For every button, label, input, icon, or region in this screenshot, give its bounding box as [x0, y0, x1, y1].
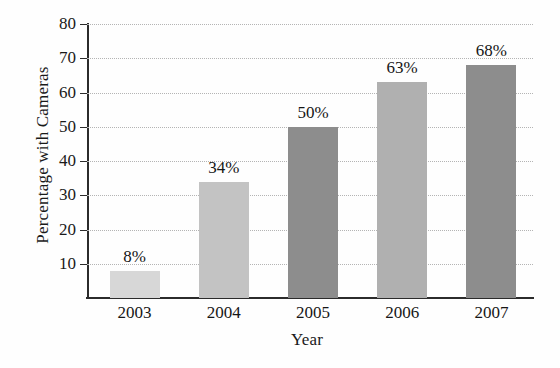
y-axis-tick-label: 80 [59, 14, 76, 34]
y-axis-tick-mark [80, 93, 87, 94]
y-axis-tick-label: 20 [59, 219, 76, 239]
y-axis-tick-label: 50 [59, 116, 76, 136]
y-axis-tick-label: 60 [59, 82, 76, 102]
bar-value-label: 63% [387, 58, 418, 78]
y-axis-tick-mark [80, 161, 87, 162]
gridline [87, 24, 533, 25]
y-axis-tick-mark [80, 195, 87, 196]
bar-2007: 68% [466, 65, 516, 298]
x-axis-tick-label-2005: 2005 [296, 303, 330, 323]
y-axis-tick-mark [80, 264, 87, 265]
bar-2005: 50% [288, 127, 338, 298]
y-axis-tick-label: 10 [59, 253, 76, 273]
y-axis-tick-label: 40 [59, 151, 76, 171]
x-axis-title: Year [87, 330, 527, 350]
bar-value-label: 8% [123, 247, 146, 267]
gridline [87, 58, 533, 59]
bar-value-label: 50% [297, 103, 328, 123]
bar-2006: 63% [377, 82, 427, 298]
bar-chart: Percentage with Cameras 1020304050607080… [0, 0, 560, 368]
x-axis-tick-label-2003: 2003 [118, 303, 152, 323]
y-axis-tick-mark [80, 24, 87, 25]
x-axis-tick-label-2007: 2007 [474, 303, 508, 323]
x-axis-tick-label-2004: 2004 [207, 303, 241, 323]
x-axis-tick-label-2006: 2006 [385, 303, 419, 323]
y-axis-tick-label: 70 [59, 48, 76, 68]
y-axis-tick-mark [80, 58, 87, 59]
y-axis-title: Percentage with Cameras [30, 5, 56, 305]
bar-value-label: 34% [208, 158, 239, 178]
y-axis-tick-mark [80, 230, 87, 231]
bar-value-label: 68% [476, 41, 507, 61]
bar-2004: 34% [199, 182, 249, 298]
bar-2003: 8% [110, 271, 160, 298]
plot-area: 1020304050607080 8%34%50%63%68% [87, 24, 533, 298]
y-axis-tick-mark [80, 127, 87, 128]
y-axis-tick-label: 30 [59, 185, 76, 205]
